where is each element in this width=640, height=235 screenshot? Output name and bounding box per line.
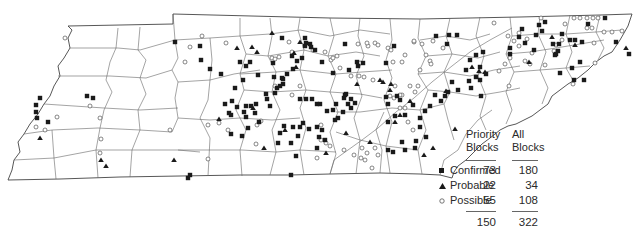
header-rule-priority <box>466 160 496 161</box>
confirmed-marker-icon <box>447 33 451 37</box>
confirmed-marker-icon <box>508 52 512 56</box>
possible-marker-icon <box>602 30 606 34</box>
confirmed-all-count: 180 <box>504 164 538 176</box>
confirmed-marker-icon <box>537 23 541 27</box>
confirmed-marker-icon <box>478 65 482 69</box>
possible-marker-icon <box>503 62 507 66</box>
confirmed-marker-icon <box>278 131 282 135</box>
confirmed-marker-icon <box>244 104 248 108</box>
confirmed-marker-icon <box>331 71 335 75</box>
confirmed-marker-icon <box>556 49 560 53</box>
possible-marker-icon <box>371 78 375 82</box>
possible-marker-icon <box>398 106 402 110</box>
possible-marker-icon <box>298 84 302 88</box>
possible-marker-icon <box>226 128 230 132</box>
confirmed-marker-icon <box>341 110 345 114</box>
possible-all-count: 108 <box>504 194 538 206</box>
possible-marker-icon <box>328 144 332 148</box>
confirmed-marker-icon <box>392 44 396 48</box>
probable-marker-icon <box>216 116 222 121</box>
possible-marker-icon <box>206 123 210 127</box>
possible-marker-icon <box>277 55 281 59</box>
confirmed-marker-icon <box>386 148 390 152</box>
possible-marker-icon <box>206 157 210 161</box>
confirmed-marker-icon <box>573 38 577 42</box>
possible-marker-icon <box>357 74 361 78</box>
probable-marker-icon <box>343 130 349 135</box>
confirmed-marker-icon <box>572 78 576 82</box>
confirmed-marker-icon <box>433 93 437 97</box>
confirmed-marker-icon <box>570 66 574 70</box>
confirmed-marker-icon <box>34 103 38 107</box>
possible-marker-icon <box>335 54 339 58</box>
possible-marker-icon <box>224 41 228 45</box>
probable-marker-icon <box>549 34 555 39</box>
confirmed-marker-icon <box>344 92 348 96</box>
confirmed-marker-icon <box>303 36 307 40</box>
confirmed-marker-icon <box>35 116 39 120</box>
possible-marker-icon <box>370 166 374 170</box>
possible-marker-icon <box>273 57 277 61</box>
confirmed-marker-icon <box>230 99 234 103</box>
confirmed-square-icon <box>439 168 445 174</box>
confirmed-marker-icon <box>347 68 351 72</box>
possible-marker-icon <box>356 42 360 46</box>
possible-marker-icon <box>585 16 589 20</box>
possible-marker-icon <box>578 16 582 20</box>
confirmed-marker-icon <box>484 72 488 76</box>
possible-marker-icon <box>403 106 407 110</box>
possible-marker-icon <box>388 94 392 98</box>
possible-marker-icon <box>572 16 576 20</box>
confirmed-marker-icon <box>233 86 237 90</box>
possible-marker-icon <box>365 151 369 155</box>
confirmed-marker-icon <box>229 113 233 117</box>
possible-marker-icon <box>200 34 204 38</box>
confirmed-marker-icon <box>310 97 314 101</box>
confirmed-marker-icon <box>478 78 482 82</box>
confirmed-marker-icon <box>455 33 459 37</box>
confirmed-marker-icon <box>254 102 258 106</box>
possible-marker-icon <box>365 41 369 45</box>
probable-triangle-icon <box>439 183 446 189</box>
confirmed-marker-icon <box>219 72 223 76</box>
confirmed-marker-icon <box>450 80 454 84</box>
confirmed-marker-icon <box>398 98 402 102</box>
confirmed-marker-icon <box>551 42 555 46</box>
confirmed-marker-icon <box>249 104 253 108</box>
confirmed-marker-icon <box>313 48 317 52</box>
possible-priority-count: 55 <box>462 194 496 206</box>
possible-marker-icon <box>406 120 410 124</box>
possible-marker-icon <box>338 66 342 70</box>
confirmed-marker-icon <box>468 58 472 62</box>
confirmed-marker-icon <box>315 146 319 150</box>
confirmed-marker-icon <box>479 94 483 98</box>
possible-marker-icon <box>99 137 103 141</box>
possible-marker-icon <box>585 26 589 30</box>
confirmed-marker-icon <box>46 120 50 124</box>
confirmed-marker-icon <box>38 96 42 100</box>
probable-marker-icon <box>249 44 255 49</box>
confirmed-marker-icon <box>343 42 347 46</box>
confirmed-marker-icon <box>540 29 544 33</box>
possible-marker-icon <box>403 53 407 57</box>
possible-marker-icon <box>517 44 521 48</box>
possible-marker-icon <box>539 16 543 20</box>
confirmed-marker-icon <box>418 116 422 120</box>
possible-marker-icon <box>441 46 445 50</box>
confirmed-marker-icon <box>253 111 257 115</box>
col-header-priority-line2: Blocks <box>466 141 500 154</box>
probable-marker-icon <box>234 45 240 50</box>
possible-marker-icon <box>523 59 527 63</box>
col-header-priority: Priority Blocks <box>466 128 500 154</box>
possible-marker-icon <box>593 61 597 65</box>
probable-priority-count: 22 <box>462 179 496 191</box>
confirmed-marker-icon <box>272 75 276 79</box>
col-header-all: All Blocks <box>512 128 544 154</box>
possible-circle-icon <box>439 198 445 204</box>
possible-marker-icon <box>543 63 547 67</box>
confirmed-marker-icon <box>445 42 449 46</box>
probable-marker-icon <box>297 39 303 44</box>
confirmed-marker-icon <box>395 94 399 98</box>
possible-marker-icon <box>331 56 335 60</box>
possible-marker-icon <box>287 40 291 44</box>
